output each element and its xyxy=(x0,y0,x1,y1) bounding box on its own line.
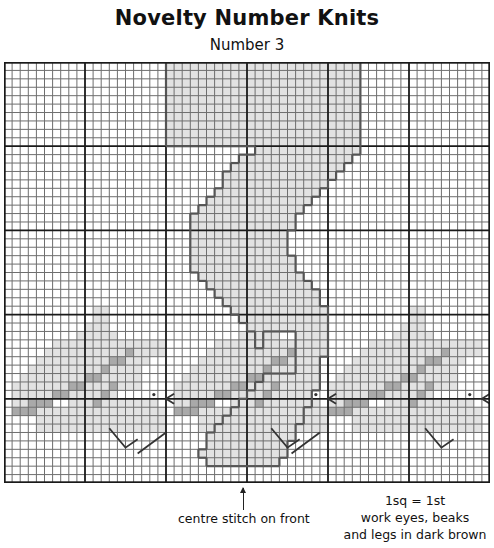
chart-cell xyxy=(271,247,279,256)
chart-cell xyxy=(417,340,425,349)
chart-cell xyxy=(190,129,198,138)
chart-cell xyxy=(255,146,263,155)
chart-cell xyxy=(288,171,296,180)
chart-cell xyxy=(255,163,263,172)
centre-arrow-icon xyxy=(243,488,244,510)
chart-cell xyxy=(166,79,174,88)
chart-cell xyxy=(255,365,263,374)
chart-cell xyxy=(417,424,425,433)
chart-cell xyxy=(441,382,449,391)
chart-cell xyxy=(441,365,449,374)
chart-cell xyxy=(198,121,206,130)
chart-cell xyxy=(215,205,223,214)
chart-cell xyxy=(182,121,190,130)
chart-cell xyxy=(231,449,239,458)
chart-cell xyxy=(352,357,360,366)
chart-cell xyxy=(109,348,117,357)
chart-cell xyxy=(174,390,182,399)
chart-cell xyxy=(304,348,312,357)
chart-cell xyxy=(296,180,304,189)
chart-cell xyxy=(61,407,69,416)
chart-cell xyxy=(190,239,198,248)
chart-cell xyxy=(401,416,409,425)
chart-cell xyxy=(304,70,312,79)
chart-cell xyxy=(198,230,206,239)
chart-cell xyxy=(231,407,239,416)
chart-cell xyxy=(271,449,279,458)
chart-cell xyxy=(271,264,279,273)
chart-cell xyxy=(174,129,182,138)
chart-cell xyxy=(377,348,385,357)
chart-cell xyxy=(271,331,279,340)
chart-cell xyxy=(182,87,190,96)
chart-cell xyxy=(320,155,328,164)
chart-cell xyxy=(450,416,458,425)
chart-cell xyxy=(223,230,231,239)
chart-cell xyxy=(77,382,85,391)
chart-cell xyxy=(239,155,247,164)
chart-cell xyxy=(279,214,287,223)
chart-cell xyxy=(231,87,239,96)
chart-cell xyxy=(101,331,109,340)
chart-cell xyxy=(360,365,368,374)
chart-cell xyxy=(215,441,223,450)
chart-cell xyxy=(320,407,328,416)
chart-cell xyxy=(101,374,109,383)
chart-cell xyxy=(344,87,352,96)
chart-cell xyxy=(215,96,223,105)
chart-cell xyxy=(223,121,231,130)
chart-cell xyxy=(255,96,263,105)
chart-cell xyxy=(450,382,458,391)
chart-cell xyxy=(288,298,296,307)
chart-cell xyxy=(45,416,53,425)
chart-cell xyxy=(126,340,134,349)
chart-cell xyxy=(279,171,287,180)
chart-cell xyxy=(231,281,239,290)
chart-cell xyxy=(263,171,271,180)
chart-cell xyxy=(215,239,223,248)
chart-cell xyxy=(263,247,271,256)
chart-cell xyxy=(101,382,109,391)
chart-cell xyxy=(312,96,320,105)
chart-cell xyxy=(247,365,255,374)
chart-cell xyxy=(158,424,166,433)
chart-cell xyxy=(296,121,304,130)
chart-cell xyxy=(45,348,53,357)
chart-cell xyxy=(263,79,271,88)
chart-cell xyxy=(223,96,231,105)
chart-cell xyxy=(247,399,255,408)
chart-cell xyxy=(296,399,304,408)
chart-cell xyxy=(279,180,287,189)
chart-cell xyxy=(239,113,247,122)
chart-cell xyxy=(223,79,231,88)
chart-cell xyxy=(215,230,223,239)
chart-cell xyxy=(417,374,425,383)
chart-cell xyxy=(320,424,328,433)
chart-cell xyxy=(190,222,198,231)
chart-cell xyxy=(53,390,61,399)
chart-cell xyxy=(223,348,231,357)
chart-cell xyxy=(271,180,279,189)
chart-cell xyxy=(279,87,287,96)
chart-cell xyxy=(409,407,417,416)
chart-cell xyxy=(239,432,247,441)
chart-cell xyxy=(247,214,255,223)
chart-cell xyxy=(255,239,263,248)
chart-cell xyxy=(296,188,304,197)
chart-cell xyxy=(328,129,336,138)
chart-cell xyxy=(223,180,231,189)
chart-cell xyxy=(198,382,206,391)
chart-cell xyxy=(458,399,466,408)
chart-cell xyxy=(215,247,223,256)
chart-cell xyxy=(336,155,344,164)
chart-cell xyxy=(263,416,271,425)
chart-cell xyxy=(360,390,368,399)
chart-cell xyxy=(190,121,198,130)
chart-cell xyxy=(239,357,247,366)
chart-cell xyxy=(142,399,150,408)
chart-cell xyxy=(288,96,296,105)
chart-cell xyxy=(207,256,215,265)
chart-cell xyxy=(223,247,231,256)
chart-cell xyxy=(101,424,109,433)
chart-cell xyxy=(385,340,393,349)
